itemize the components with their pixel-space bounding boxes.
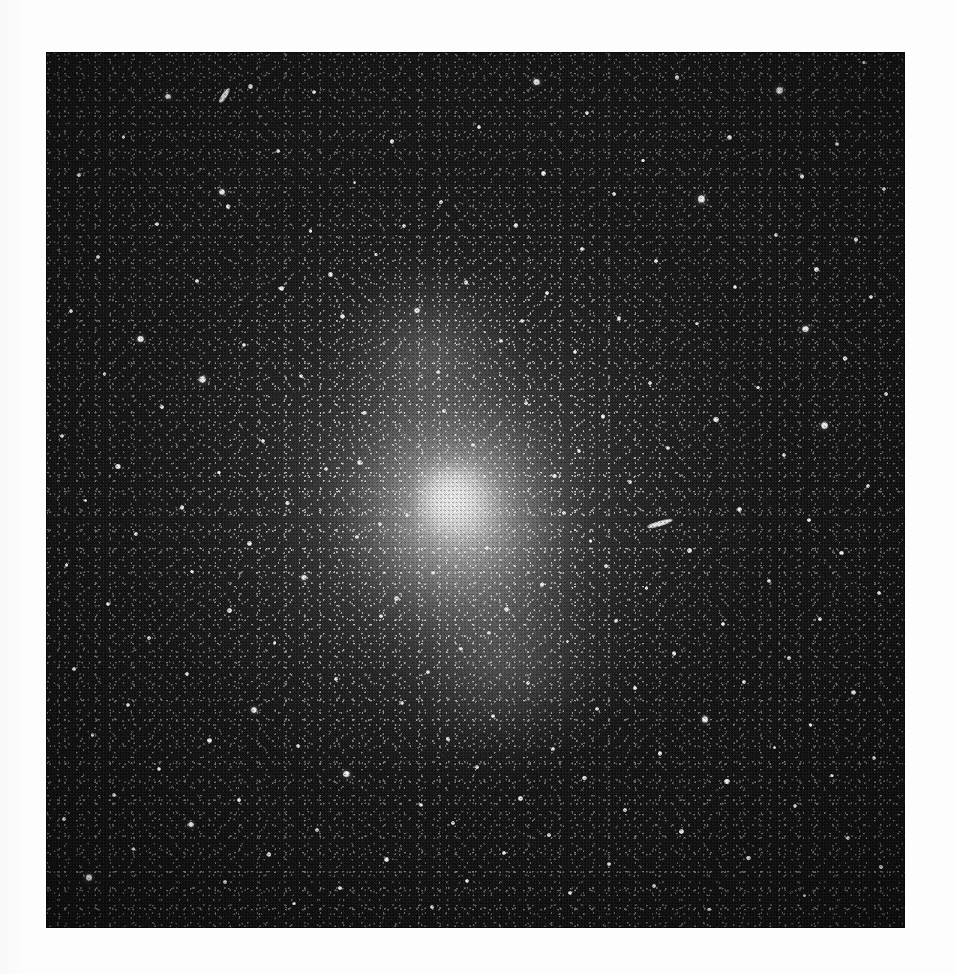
scan-edge-band — [0, 0, 26, 974]
faint-field-speckle — [46, 52, 905, 928]
photographic-plate — [46, 52, 905, 928]
page-root — [0, 0, 956, 974]
